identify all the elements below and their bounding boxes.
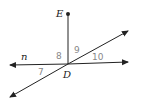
point-e-label: E: [56, 9, 63, 19]
angle-8-label: 8: [56, 51, 62, 61]
line-n-right: [68, 62, 128, 64]
angle-7-label: 7: [38, 67, 44, 77]
angle-10-label: 10: [92, 52, 103, 62]
angle-9-label: 9: [74, 45, 80, 55]
point-d-label: D: [63, 70, 71, 80]
geometry-diagram: E D n 7 8 9 10: [0, 0, 141, 101]
line-n: [10, 64, 68, 65]
line-n-label: n: [21, 52, 27, 62]
point-e-dot: [66, 12, 70, 16]
